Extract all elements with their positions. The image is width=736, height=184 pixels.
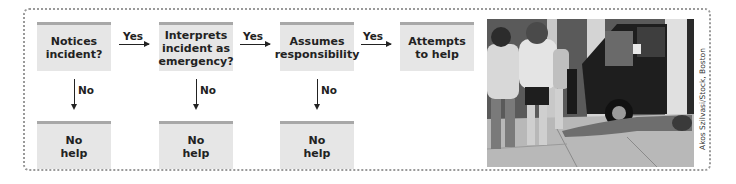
step-attempts-to-help: Attemptsto help [400,22,474,71]
arrow-down-icon [196,79,197,108]
no-label: No [321,84,337,96]
arrow-right-icon [361,44,391,45]
arrow-right-icon [240,44,270,45]
outcome-text: No [188,134,205,147]
outcome-text: No [309,134,326,147]
outcome-text: help [183,147,210,160]
step-text: responsibility [275,48,360,61]
arrow-right-icon [119,44,149,45]
step-text: incident as [162,42,230,55]
photo-credit: Akos Szilvasi/Stock, Boston [698,48,707,150]
step-text: Interprets [165,29,228,42]
arrow-down-icon [317,79,318,108]
outcome-text: help [304,147,331,160]
outcome-text: help [61,147,88,160]
step-text: incident? [46,48,103,61]
step-interprets-emergency: Interpretsincident asemergency? [159,22,233,71]
step-text: emergency? [158,55,233,68]
yes-label: Yes [363,30,383,42]
arrow-down-icon [74,79,75,108]
step-text: Assumes [290,35,345,48]
step-notices-incident: Noticesincident? [37,22,111,71]
no-label: No [78,84,94,96]
outcome-text: No [66,134,83,147]
yes-label: Yes [243,30,263,42]
bystander-photo [487,19,694,167]
outcome-no-help: Nohelp [280,121,354,169]
outcome-no-help: Nohelp [37,121,111,169]
photo-illustration [487,19,694,167]
step-text: Attempts [408,35,466,48]
step-assumes-responsibility: Assumesresponsibility [280,22,354,71]
yes-label: Yes [123,30,143,42]
step-text: to help [415,48,459,61]
no-label: No [200,84,216,96]
outcome-no-help: Nohelp [159,121,233,169]
step-text: Notices [51,35,97,48]
